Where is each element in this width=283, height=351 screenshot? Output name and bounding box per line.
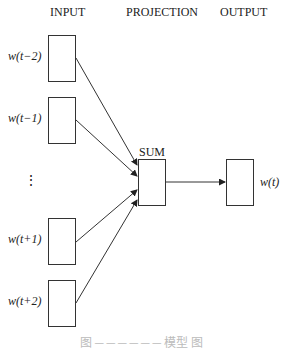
input-label-4: w(t+2) xyxy=(8,294,41,309)
projection-label: SUM xyxy=(139,145,165,160)
output-box xyxy=(226,159,254,206)
input-label-3: w(t+1) xyxy=(8,232,41,247)
input-label-1: w(t−2) xyxy=(8,49,41,64)
projection-box xyxy=(138,159,166,206)
output-label: w(t) xyxy=(260,175,279,190)
input-box-4 xyxy=(48,280,76,327)
input-box-3 xyxy=(48,218,76,265)
input-box-1 xyxy=(48,35,76,82)
figure-caption: 图 ─ ─ ─ ─ ─ ─ 模型 图 xyxy=(80,333,203,351)
ellipsis: ⋮ xyxy=(24,172,38,189)
input-label-2: w(t−1) xyxy=(8,111,41,126)
input-box-2 xyxy=(48,97,76,144)
